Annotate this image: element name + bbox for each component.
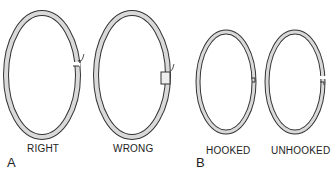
ring-right (6, 13, 84, 137)
ring-hooked (198, 32, 255, 132)
ring-label-unhooked: UNHOOKED (271, 145, 330, 156)
ring-unhooked (267, 32, 326, 132)
panel-letter-b: B (196, 155, 205, 170)
panel-letter-a: A (7, 155, 16, 170)
ring-label-wrong: WRONG (113, 143, 153, 154)
ring-label-right: RIGHT (27, 143, 59, 154)
ring-wrong (96, 13, 174, 137)
ring-label-hooked: HOOKED (206, 145, 251, 156)
